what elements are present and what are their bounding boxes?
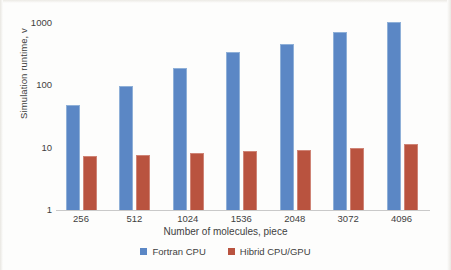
- plot-area: [56, 18, 430, 210]
- bar-fortran-cpu-1024: [173, 68, 187, 210]
- bar-group: [66, 18, 96, 210]
- bar-hibrid-cpu-gpu-1536: [243, 151, 257, 210]
- bar-fortran-cpu-3072: [333, 32, 347, 210]
- y-tick-label-1: 1: [16, 205, 52, 215]
- bar-group: [119, 18, 149, 210]
- bar-hibrid-cpu-gpu-256: [83, 156, 97, 210]
- chart-legend: Fortran CPUHibrid CPU/GPU: [0, 246, 451, 257]
- x-axis-tick-labels: 25651210241536204830724096: [56, 211, 430, 227]
- y-tick-label-100: 100: [16, 80, 52, 90]
- legend-label: Fortran CPU: [152, 246, 205, 257]
- bar-chart: Simulation runtime, v 1000100101 2565121…: [0, 0, 451, 270]
- bar-hibrid-cpu-gpu-512: [136, 155, 150, 210]
- bar-hibrid-cpu-gpu-4096: [404, 144, 418, 210]
- x-tick-label-1024: 1024: [162, 213, 214, 224]
- bar-fortran-cpu-4096: [387, 22, 401, 211]
- bar-fortran-cpu-512: [119, 86, 133, 210]
- x-axis-title: Number of molecules, piece: [0, 226, 451, 237]
- x-tick-label-256: 256: [55, 213, 107, 224]
- bar-group: [173, 18, 203, 210]
- x-tick-label-2048: 2048: [269, 213, 321, 224]
- bar-hibrid-cpu-gpu-1024: [190, 153, 204, 210]
- bar-group: [387, 18, 417, 210]
- y-tick-label-10: 10: [16, 143, 52, 153]
- y-axis-tick-labels: 1000100101: [14, 0, 52, 230]
- bar-hibrid-cpu-gpu-2048: [297, 150, 311, 210]
- x-tick-label-1536: 1536: [215, 213, 267, 224]
- legend-item-fortran-cpu[interactable]: Fortran CPU: [140, 246, 205, 257]
- bar-hibrid-cpu-gpu-3072: [350, 148, 364, 210]
- legend-item-hibrid-cpu-gpu[interactable]: Hibrid CPU/GPU: [228, 246, 311, 257]
- x-tick-label-512: 512: [108, 213, 160, 224]
- bar-group: [333, 18, 363, 210]
- y-tick-label-1000: 1000: [16, 18, 52, 28]
- bar-group: [280, 18, 310, 210]
- bar-fortran-cpu-2048: [280, 44, 294, 210]
- legend-swatch-icon: [140, 248, 147, 255]
- bar-group: [226, 18, 256, 210]
- legend-label: Hibrid CPU/GPU: [240, 246, 311, 257]
- legend-swatch-icon: [228, 248, 235, 255]
- x-tick-label-3072: 3072: [322, 213, 374, 224]
- bar-fortran-cpu-1536: [226, 52, 240, 210]
- x-tick-label-4096: 4096: [376, 213, 428, 224]
- bar-fortran-cpu-256: [66, 105, 80, 210]
